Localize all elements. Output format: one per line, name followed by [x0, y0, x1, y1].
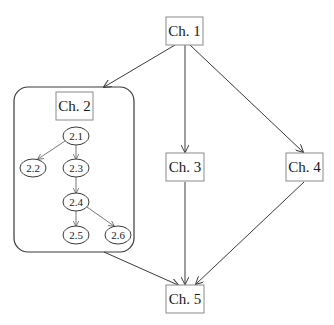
dependency-diagram: Ch. 1 Ch. 2 Ch. 3 Ch. 4 Ch. 5 2.1 2.2 2.… [0, 0, 334, 325]
node-ch5-label: Ch. 5 [169, 291, 202, 307]
node-ch1: Ch. 1 [166, 17, 203, 45]
node-2.5-label: 2.5 [69, 229, 83, 241]
node-ch3-label: Ch. 3 [169, 159, 202, 175]
node-2.3-label: 2.3 [69, 162, 83, 174]
node-ch2: Ch. 2 [56, 92, 93, 120]
node-2.6-label: 2.6 [111, 229, 125, 241]
node-2.2: 2.2 [20, 159, 46, 177]
node-2.2-label: 2.2 [26, 162, 40, 174]
node-ch5: Ch. 5 [166, 285, 204, 313]
node-2.4-label: 2.4 [69, 196, 83, 208]
node-ch2-label: Ch. 2 [58, 98, 91, 114]
edge-ch4-ch5 [196, 182, 304, 284]
node-2.1-label: 2.1 [69, 130, 83, 142]
node-2.6: 2.6 [105, 226, 131, 244]
node-ch4-label: Ch. 4 [288, 159, 321, 175]
edge-ch1-ch2 [104, 45, 175, 87]
node-ch3: Ch. 3 [166, 153, 204, 181]
node-ch1-label: Ch. 1 [168, 23, 201, 39]
node-2.5: 2.5 [63, 226, 89, 244]
node-ch4: Ch. 4 [286, 153, 323, 181]
edge-ch2-ch5 [104, 252, 178, 285]
node-2.4: 2.4 [63, 193, 89, 211]
node-2.1: 2.1 [63, 127, 89, 145]
edge-2.4-2.6 [87, 207, 114, 226]
edge-2.1-2.2 [38, 141, 65, 159]
edge-ch1-ch4 [190, 45, 303, 152]
node-2.3: 2.3 [63, 159, 89, 177]
section-edges [38, 141, 114, 226]
